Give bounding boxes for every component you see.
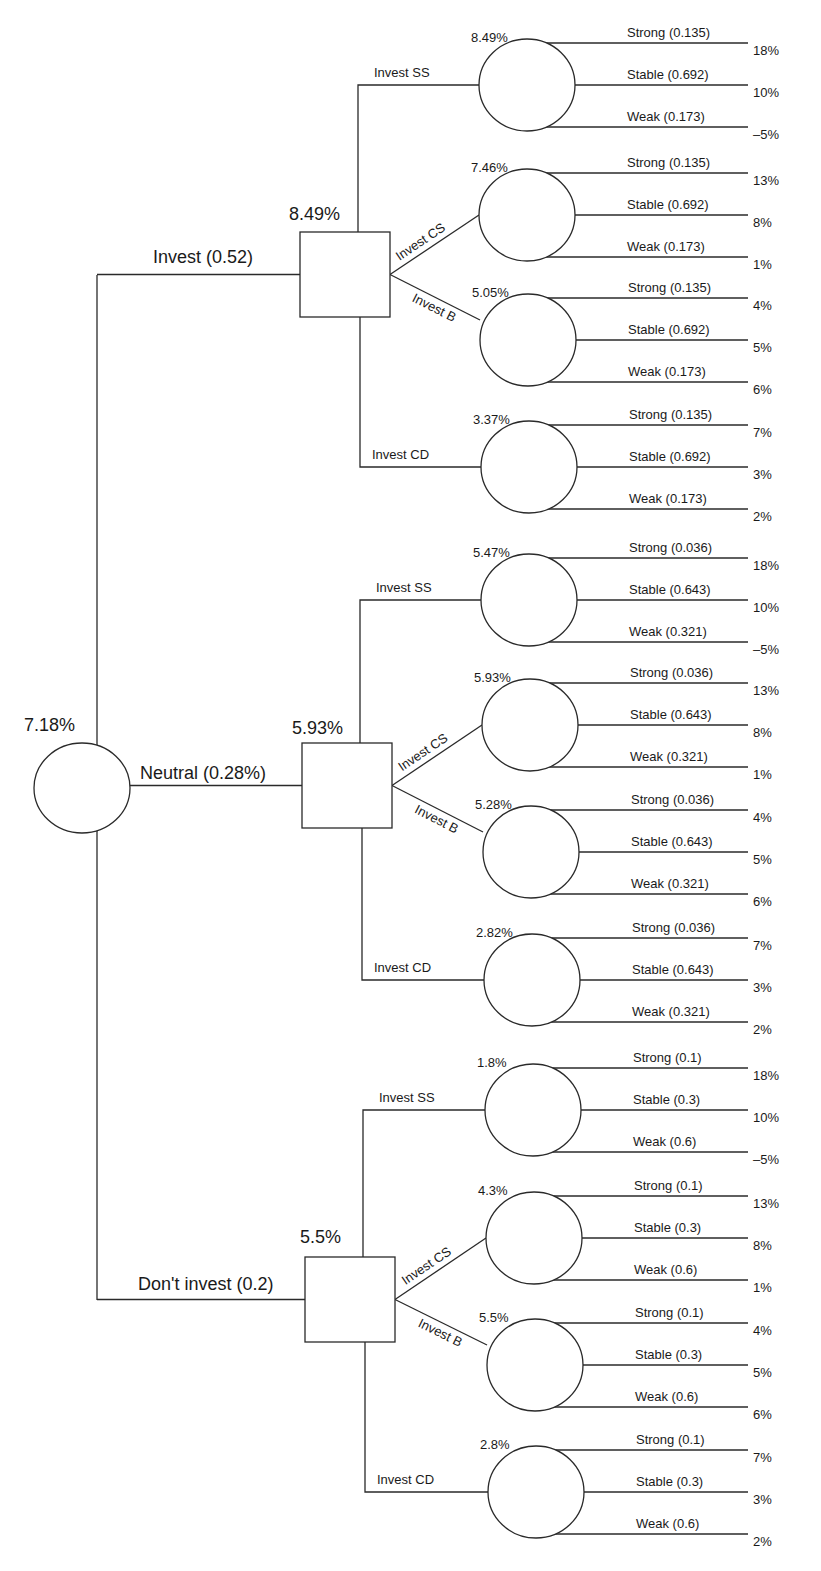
decision-tree-diagram: 7.18%Invest (0.52)8.49%Invest SS8.49%Str…: [0, 0, 821, 1571]
outcome-payoff: –5%: [753, 127, 779, 142]
outcome-label: Weak (0.321): [631, 876, 709, 891]
outcome-payoff: 6%: [753, 382, 772, 397]
decision-node: [302, 743, 392, 828]
option-edge-cd: [362, 828, 484, 980]
outcome-payoff: 8%: [753, 215, 772, 230]
outcome-label: Strong (0.135): [628, 280, 711, 295]
chance-node: [486, 1192, 582, 1284]
outcome-label: Weak (0.321): [629, 624, 707, 639]
option-label: Invest B: [412, 802, 461, 837]
outcome-label: Stable (0.692): [627, 67, 709, 82]
decision-expected-value: 5.5%: [300, 1227, 341, 1247]
chance-node: [479, 39, 575, 131]
option-edge-ss: [363, 1110, 485, 1257]
outcome-payoff: 13%: [753, 173, 779, 188]
outcome-payoff: 2%: [753, 509, 772, 524]
outcome-payoff: 10%: [753, 600, 779, 615]
outcome-payoff: 2%: [753, 1534, 772, 1549]
outcome-label: Stable (0.643): [632, 962, 714, 977]
outcome-payoff: 10%: [753, 85, 779, 100]
root-chance-node: [34, 743, 130, 833]
outcome-payoff: 3%: [753, 1492, 772, 1507]
chance-expected-value: 7.46%: [471, 160, 508, 175]
outcome-label: Strong (0.036): [629, 540, 712, 555]
outcome-payoff: 4%: [753, 298, 772, 313]
outcome-label: Strong (0.1): [633, 1050, 702, 1065]
option-label: Invest CD: [374, 960, 431, 975]
option-label: Invest SS: [376, 580, 432, 595]
chance-node: [482, 679, 578, 771]
chance-expected-value: 5.05%: [472, 285, 509, 300]
chance-expected-value: 2.82%: [476, 925, 513, 940]
chance-node: [480, 294, 576, 386]
chance-expected-value: 1.8%: [477, 1055, 507, 1070]
outcome-label: Strong (0.135): [627, 25, 710, 40]
outcome-payoff: 1%: [753, 257, 772, 272]
outcome-payoff: 1%: [753, 1280, 772, 1295]
outcome-payoff: 1%: [753, 767, 772, 782]
outcome-payoff: 6%: [753, 894, 772, 909]
decision-node: [305, 1257, 395, 1342]
outcome-label: Strong (0.1): [636, 1432, 705, 1447]
outcome-payoff: 18%: [753, 1068, 779, 1083]
outcome-label: Weak (0.6): [633, 1134, 696, 1149]
outcome-payoff: 8%: [753, 725, 772, 740]
outcome-label: Weak (0.173): [628, 364, 706, 379]
outcome-payoff: –5%: [753, 1152, 779, 1167]
outcome-label: Weak (0.173): [627, 239, 705, 254]
option-label: Invest CD: [372, 447, 429, 462]
outcome-payoff: 13%: [753, 683, 779, 698]
option-edge-ss: [358, 85, 479, 232]
option-label: Invest B: [416, 1315, 465, 1349]
outcome-payoff: 6%: [753, 1407, 772, 1422]
chance-node: [481, 554, 577, 646]
branch-label: Neutral (0.28%): [140, 763, 266, 783]
chance-node: [483, 806, 579, 898]
chance-expected-value: 5.93%: [474, 670, 511, 685]
option-edge-cd: [365, 1342, 488, 1492]
outcome-payoff: 3%: [753, 467, 772, 482]
branch-label: Invest (0.52): [153, 247, 253, 267]
branch-label: Don't invest (0.2): [138, 1274, 274, 1294]
option-label: Invest CD: [377, 1472, 434, 1487]
outcome-label: Weak (0.321): [632, 1004, 710, 1019]
option-edge-cd: [360, 317, 481, 467]
outcome-payoff: 13%: [753, 1196, 779, 1211]
outcome-payoff: 7%: [753, 938, 772, 953]
outcome-label: Weak (0.6): [636, 1516, 699, 1531]
chance-node: [487, 1319, 583, 1411]
outcome-label: Stable (0.3): [633, 1092, 700, 1107]
option-label: Invest SS: [379, 1090, 435, 1105]
outcome-label: Strong (0.036): [630, 665, 713, 680]
outcome-payoff: 4%: [753, 1323, 772, 1338]
decision-node: [300, 232, 390, 317]
root-expected-value: 7.18%: [24, 715, 75, 735]
outcome-payoff: 7%: [753, 425, 772, 440]
outcome-label: Strong (0.1): [634, 1178, 703, 1193]
outcome-label: Weak (0.321): [630, 749, 708, 764]
outcome-label: Stable (0.692): [629, 449, 711, 464]
chance-node: [488, 1446, 584, 1538]
chance-expected-value: 3.37%: [473, 412, 510, 427]
decision-expected-value: 5.93%: [292, 718, 343, 738]
outcome-payoff: 3%: [753, 980, 772, 995]
outcome-payoff: 5%: [753, 340, 772, 355]
outcome-label: Strong (0.135): [627, 155, 710, 170]
outcome-label: Stable (0.643): [629, 582, 711, 597]
outcome-payoff: 5%: [753, 1365, 772, 1380]
option-label: Invest B: [410, 290, 459, 325]
outcome-label: Stable (0.3): [634, 1220, 701, 1235]
outcome-payoff: 10%: [753, 1110, 779, 1125]
chance-node: [484, 934, 580, 1026]
outcome-label: Strong (0.135): [629, 407, 712, 422]
outcome-label: Weak (0.173): [627, 109, 705, 124]
chance-node: [485, 1064, 581, 1156]
option-edge-ss: [360, 600, 481, 743]
chance-node: [479, 169, 575, 261]
tree-labels: 7.18%Invest (0.52)8.49%Invest SS8.49%Str…: [24, 25, 779, 1549]
chance-expected-value: 5.5%: [479, 1310, 509, 1325]
outcome-label: Stable (0.3): [636, 1474, 703, 1489]
outcome-label: Stable (0.643): [631, 834, 713, 849]
outcome-label: Strong (0.036): [631, 792, 714, 807]
outcome-label: Weak (0.173): [629, 491, 707, 506]
